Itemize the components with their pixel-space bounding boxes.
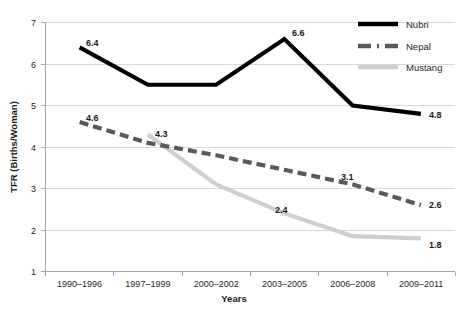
- legend-label-nubri: Nubri: [406, 19, 429, 30]
- tfr-line-chart: 7 6 5 4 3 2 1 TFR (Births/Woman) 1990–19…: [0, 0, 469, 312]
- x-tick-label-0: 1990–1996: [57, 279, 102, 289]
- data-label-nepal-2009-2011: 2.6: [429, 200, 442, 210]
- data-label-mustang-1997-1999: 4.3: [155, 129, 168, 139]
- y-tick-label-2: 2: [31, 226, 36, 236]
- y-tick-label-5: 5: [31, 101, 36, 111]
- y-tick-label-6: 6: [31, 60, 36, 70]
- chart-background: [0, 0, 469, 312]
- data-label-mustang-2003-2005: 2.4: [275, 205, 288, 215]
- x-tick-label-1: 1997–1999: [125, 279, 170, 289]
- data-label-nepal-2006-2008: 3.1: [341, 172, 354, 182]
- data-label-nubri-1990-1996: 6.4: [86, 38, 99, 48]
- x-tick-label-2: 2000–2002: [194, 279, 239, 289]
- x-axis-title: Years: [221, 293, 246, 304]
- x-tick-label-5: 2009–2011: [399, 279, 443, 289]
- y-tick-label-4: 4: [31, 143, 36, 153]
- y-axis-title: TFR (Births/Woman): [8, 101, 19, 193]
- data-label-nubri-2003-2005: 6.6: [292, 28, 305, 38]
- legend-label-nepal: Nepal: [406, 41, 431, 52]
- y-tick-label-1: 1: [31, 267, 36, 277]
- data-label-nubri-2009-2011: 4.8: [429, 110, 442, 120]
- x-tick-label-4: 2006–2008: [330, 279, 375, 289]
- x-tick-label-3: 2003–2005: [262, 279, 307, 289]
- data-label-mustang-2009-2011: 1.8: [429, 240, 442, 250]
- y-tick-label-7: 7: [31, 18, 36, 28]
- y-tick-label-3: 3: [31, 184, 36, 194]
- data-label-nepal-1990-1996: 4.6: [86, 113, 99, 123]
- chart-container: 7 6 5 4 3 2 1 TFR (Births/Woman) 1990–19…: [0, 0, 469, 312]
- legend-label-mustang: Mustang: [406, 62, 442, 73]
